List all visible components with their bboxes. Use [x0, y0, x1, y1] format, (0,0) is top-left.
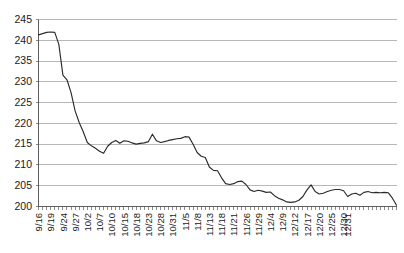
x-tick-label: 9/19 [45, 213, 56, 232]
x-tick-label: 10/15 [119, 213, 130, 237]
x-tick-label: 12/9 [277, 213, 288, 232]
x-tick-label: 10/31 [167, 213, 178, 237]
x-tick-label: 9/24 [58, 213, 69, 232]
chart-canvas: 200205210215220225230235240245 9/169/199… [0, 0, 404, 253]
x-tick-label: 11/8 [192, 213, 203, 231]
y-axis-tick-labels: 200205210215220225230235240245 [14, 13, 32, 212]
y-tick-label: 230 [14, 75, 32, 87]
x-tick-label: 12/17 [302, 213, 313, 237]
x-tick-label: 12/12 [289, 213, 300, 237]
x-tick-label: 9/16 [33, 213, 44, 232]
y-tick-label: 225 [14, 96, 32, 108]
gridlines [39, 20, 397, 186]
data-series-line [39, 32, 397, 205]
y-tick-label: 235 [14, 54, 32, 66]
x-tick-label: 12/4 [265, 213, 276, 232]
x-tick-label: 9/27 [70, 213, 81, 232]
x-axis-tick-labels: 9/169/199/249/2710/210/710/1010/1510/181… [33, 213, 353, 237]
x-tick-label: 10/10 [106, 213, 117, 237]
x-tick-label: 12/25 [326, 213, 337, 237]
x-tick-label: 10/28 [155, 213, 166, 237]
line-chart: 200205210215220225230235240245 9/169/199… [0, 0, 404, 253]
y-tick-label: 205 [14, 179, 32, 191]
x-tick-label: 12/20 [314, 213, 325, 237]
y-tick-label: 215 [14, 137, 32, 149]
x-tick-label: 12/31 [342, 213, 353, 237]
x-tick-label: 10/2 [82, 213, 93, 232]
y-tick-label: 245 [14, 13, 32, 25]
x-tick-label: 10/23 [143, 213, 154, 237]
x-axis-tick-marks [39, 207, 397, 211]
x-tick-label: 11/29 [253, 213, 264, 236]
x-tick-label: 11/26 [241, 213, 252, 236]
x-tick-label: 10/7 [94, 213, 105, 232]
x-tick-label: 10/18 [131, 213, 142, 237]
y-tick-label: 220 [14, 117, 32, 129]
y-tick-label: 200 [14, 200, 32, 212]
x-tick-label: 11/5 [180, 213, 191, 231]
x-tick-label: 11/13 [204, 213, 215, 236]
y-tick-label: 210 [14, 158, 32, 170]
x-tick-label: 11/21 [228, 213, 239, 236]
x-tick-label: 11/18 [216, 213, 227, 236]
y-tick-label: 240 [14, 34, 32, 46]
